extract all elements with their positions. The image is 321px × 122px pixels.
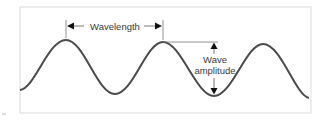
wavelength-label: Wavelength bbox=[90, 21, 140, 32]
wavelength-right-arrow-icon bbox=[155, 23, 162, 30]
wave-diagram: Wavelength Wave amplitude bbox=[0, 0, 321, 122]
amplitude-label-line2: amplitude bbox=[194, 65, 235, 76]
amplitude-down-arrow-icon bbox=[211, 88, 218, 95]
amplitude-up-arrow-icon bbox=[211, 43, 218, 50]
diagram-frame bbox=[20, 7, 311, 113]
wavelength-left-arrow-icon bbox=[67, 23, 74, 30]
amplitude-label-line1: Wave bbox=[203, 54, 227, 65]
wave-curve bbox=[20, 40, 309, 98]
